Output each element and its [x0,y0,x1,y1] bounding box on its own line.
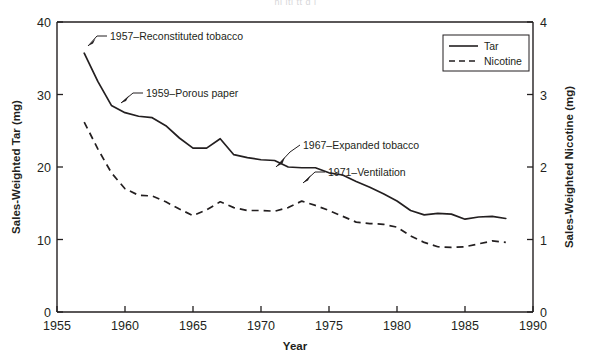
y-tick-label-20: 20 [37,161,51,175]
legend-label-nicotine: Nicotine [484,55,522,67]
annotation-porous-paper: 1959–Porous paper [121,87,239,103]
x-tick-label-1960: 1960 [111,319,139,333]
y-axis-right-title: Sales-Weighted Nicotine (mg) [563,86,575,248]
legend-label-tar: Tar [484,40,499,52]
annotation-label-ventilation: 1971–Ventilation [328,166,406,178]
figure-container: hi itl tt d i 40 30 20 10 0 [0,0,591,361]
y2-tick-label-1: 1 [540,234,547,248]
arrowhead-icon [88,39,96,47]
y-axis-left-ticks: 40 30 20 10 0 [37,16,63,320]
annotation-expanded-tobacco: 1967–Expanded tobacco [276,139,419,167]
series-line-tar [84,53,506,219]
y-tick-label-0: 0 [44,306,51,320]
y-axis-left-title: Sales-Weighted Tar (mg) [10,100,22,234]
y-axis-right-ticks: 4 3 2 1 0 [527,16,547,320]
x-tick-label-1980: 1980 [383,319,411,333]
y2-tick-label-4: 4 [540,16,547,30]
x-tick-label-1975: 1975 [315,319,343,333]
x-tick-label-1990: 1990 [519,319,547,333]
data-series-group [84,53,506,247]
y-tick-label-40: 40 [37,16,51,30]
annotation-label-porous-paper: 1959–Porous paper [146,87,239,99]
series-line-nicotine [84,122,506,247]
y2-tick-label-0: 0 [540,306,547,320]
annotation-label-expanded-tobacco: 1967–Expanded tobacco [303,139,419,151]
x-axis-title: Year [283,340,308,352]
y2-tick-label-3: 3 [540,89,547,103]
annotation-reconstituted-tobacco: 1957–Reconstituted tobacco [88,30,243,46]
tar-nicotine-line-chart: 40 30 20 10 0 4 3 2 1 0 [0,0,591,361]
x-axis-ticks: 1955 1960 1965 1970 1975 1980 1985 1990 [43,306,547,333]
x-tick-label-1985: 1985 [451,319,479,333]
x-tick-label-1955: 1955 [43,319,71,333]
annotation-label-reconstituted-tobacco: 1957–Reconstituted tobacco [110,30,243,42]
y2-tick-label-2: 2 [540,161,547,175]
y-tick-label-30: 30 [37,89,51,103]
legend: Tar Nicotine [443,35,529,71]
y-tick-label-10: 10 [37,234,51,248]
x-tick-label-1970: 1970 [247,319,275,333]
x-tick-label-1965: 1965 [179,319,207,333]
